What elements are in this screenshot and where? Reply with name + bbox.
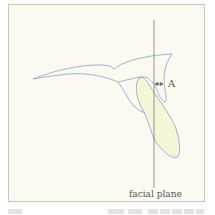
facial-plane-label: facial plane <box>129 189 182 199</box>
distance-label: A <box>168 78 175 89</box>
distance-arrow <box>155 83 163 86</box>
diagram-canvas <box>0 0 215 215</box>
lower-lens-shape <box>136 77 179 157</box>
caption-cutoff <box>0 207 215 215</box>
